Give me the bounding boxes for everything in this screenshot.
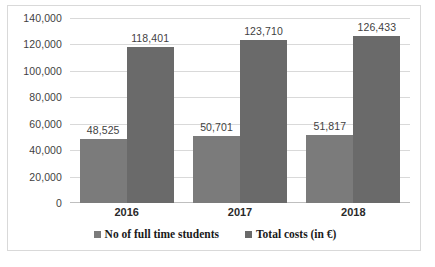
bar-group: 51,817126,433: [306, 18, 400, 203]
legend-swatch-icon: [94, 231, 101, 238]
y-axis-tick-label: 100,000: [23, 65, 62, 77]
legend-item[interactable]: Total costs (in €): [245, 228, 336, 240]
bar-value-label: 118,401: [131, 32, 169, 44]
bar[interactable]: 50,701: [193, 136, 240, 203]
y-axis-tick-label: 60,000: [29, 118, 62, 130]
bar-value-label: 50,701: [200, 121, 233, 133]
legend-swatch-icon: [245, 231, 252, 238]
bar-value-label: 48,525: [87, 124, 120, 136]
bar[interactable]: 51,817: [306, 135, 353, 203]
y-axis-tick-label: 0: [56, 197, 62, 209]
y-axis: 020,00040,00060,00080,000100,000120,0001…: [8, 18, 66, 203]
legend-label: No of full time students: [105, 228, 219, 240]
y-axis-tick-label: 40,000: [29, 144, 62, 156]
legend-label: Total costs (in €): [256, 228, 336, 240]
chart-frame: 020,00040,00060,00080,000100,000120,0001…: [7, 5, 421, 251]
bar[interactable]: 123,710: [240, 40, 287, 203]
bar-group: 48,525118,401: [80, 18, 174, 203]
y-axis-tick-label: 120,000: [23, 38, 62, 50]
y-axis-tick-label: 140,000: [23, 12, 62, 24]
x-axis-tick-label: 2016: [114, 206, 138, 218]
bar-value-label: 51,817: [313, 120, 346, 132]
y-axis-tick-label: 80,000: [29, 91, 62, 103]
bar[interactable]: 126,433: [353, 36, 400, 203]
x-axis: 201620172018: [70, 206, 410, 224]
x-axis-tick-label: 2018: [341, 206, 365, 218]
chart-legend: No of full time studentsTotal costs (in …: [8, 228, 422, 240]
legend-item[interactable]: No of full time students: [94, 228, 219, 240]
bar[interactable]: 48,525: [80, 139, 127, 203]
plot-area: 48,525118,40150,701123,71051,817126,433: [70, 18, 410, 203]
bar-value-label: 123,710: [244, 25, 283, 37]
bar-value-label: 126,433: [358, 21, 397, 33]
y-axis-tick-label: 20,000: [29, 171, 62, 183]
bar-group: 50,701123,710: [193, 18, 287, 203]
bar[interactable]: 118,401: [127, 47, 174, 203]
x-axis-tick-label: 2017: [228, 206, 252, 218]
